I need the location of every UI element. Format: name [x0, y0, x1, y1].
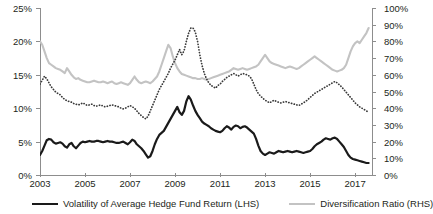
y-axis-right-labels: 0%10%20%30%40%50%60%70%80%90%100% — [378, 8, 414, 175]
y-axis-right-tick-label: 70% — [384, 53, 403, 64]
y-axis-left-tick-label: 5% — [18, 136, 32, 147]
x-axis-labels: 20032005200720092011201320152017 — [40, 177, 373, 193]
legend-item-diversification-ratio: Diversification Ratio (RHS) — [289, 198, 433, 209]
y-axis-right-tick-label: 60% — [384, 69, 403, 80]
series-line-1 — [40, 28, 369, 85]
y-axis-left-tick-label: 15% — [13, 69, 32, 80]
chart-legend: Volatility of Average Hedge Fund Return … — [0, 198, 414, 214]
y-axis-left-tick-label: 10% — [13, 103, 32, 114]
series-canvas — [40, 8, 372, 175]
y-axis-right-tick-label: 10% — [384, 153, 403, 164]
y-axis-right-tick-label: 80% — [384, 36, 403, 47]
series-line-0 — [40, 96, 369, 163]
y-axis-left-tick-label: 25% — [13, 3, 32, 14]
legend-label-diversification-ratio: Diversification Ratio (RHS) — [320, 198, 433, 209]
x-axis-tick-label: 2003 — [29, 178, 50, 189]
legend-label-volatility: Volatility of Average Hedge Fund Return … — [63, 198, 259, 209]
y-axis-right-tick-label: 40% — [384, 103, 403, 114]
series-line-2 — [40, 28, 369, 119]
y-axis-left-tick-label: 20% — [13, 36, 32, 47]
legend-swatch-solid-line-icon — [32, 203, 58, 205]
x-axis-tick-label: 2011 — [210, 178, 230, 189]
y-axis-right-tick-label: 90% — [384, 19, 403, 30]
x-axis-tick-label: 2015 — [300, 178, 321, 189]
x-axis-tick-label: 2005 — [74, 178, 95, 189]
x-axis-tick-label: 2009 — [164, 178, 185, 189]
y-axis-right-tick-label: 0% — [384, 170, 398, 181]
y-axis-right-tick-label: 30% — [384, 119, 403, 130]
y-axis-right-tick-label: 100% — [384, 3, 408, 14]
x-axis-tick-label: 2013 — [255, 178, 276, 189]
x-axis-tick-label: 2017 — [345, 178, 366, 189]
legend-item-volatility: Volatility of Average Hedge Fund Return … — [32, 198, 259, 209]
legend-swatch-gray-line-icon — [289, 203, 315, 205]
x-axis-line — [40, 175, 373, 176]
y-axis-right-tick-label: 20% — [384, 136, 403, 147]
y-axis-left-labels: 0%5%10%15%20%25% — [0, 8, 36, 175]
y-axis-right-line — [372, 8, 373, 175]
y-axis-right-tick-label: 50% — [384, 86, 403, 97]
x-axis-tick-label: 2007 — [119, 178, 140, 189]
plot-area — [40, 8, 372, 175]
